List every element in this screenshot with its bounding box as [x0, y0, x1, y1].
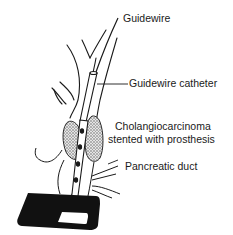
label-pancreatic-duct: Pancreatic duct: [125, 160, 197, 172]
pancreatic-duct: [92, 166, 120, 198]
label-stented-with-prosthesis: stented with prosthesis: [108, 133, 215, 145]
biliary-stent-diagram: [0, 0, 233, 235]
label-guidewire: Guidewire: [123, 12, 170, 24]
label-guidewire-catheter: Guidewire catheter: [129, 77, 217, 89]
guidewire-catheter: [80, 72, 97, 123]
common-bile-duct-walls: [35, 148, 94, 196]
label-cholangiocarcinoma: Cholangiocarcinoma: [115, 120, 211, 132]
duodenoscope-tip: [17, 193, 100, 230]
